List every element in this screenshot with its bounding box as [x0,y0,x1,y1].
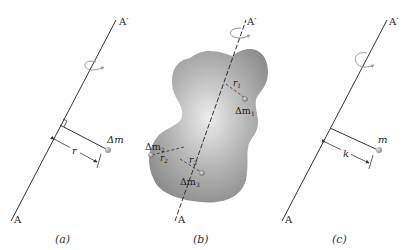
rotation-axis [282,20,387,221]
mass-dot [376,147,382,153]
caption-a: (a) [55,233,70,246]
mass-3-dot [200,171,205,176]
rotation-arrow-icon [230,28,250,38]
mass-1-dot [243,97,248,102]
rotation-arrow-icon [85,61,104,70]
moment-of-inertia-figure: A′ A Δm r (a) A′ A r1 Δm1 r2 Δm [0,0,407,250]
axis-bottom-label: A [13,214,22,225]
mass-dot [105,147,111,153]
rotation-arrow-icon [355,53,374,67]
axis-top-label: A′ [118,16,129,27]
mass-label: m [378,134,387,145]
axis-bottom-label: A [177,214,186,225]
mass-2-dot [149,153,154,158]
axis-top-label: A′ [388,16,399,27]
dimension-tick-end [97,154,101,168]
panel-a: A′ A Δm r (a) [11,16,129,246]
axis-top-label: A′ [246,16,257,27]
axis-bottom-label: A [284,214,293,225]
radius-line [330,128,378,150]
dimension-tick-end [369,155,373,169]
caption-b: (b) [193,233,209,246]
caption-c: (c) [332,233,347,246]
panel-b: A′ A r1 Δm1 r2 Δm2 r3 Δm3 (b) [145,16,268,246]
rotation-axis [11,20,116,221]
mass-label: Δm [106,134,124,145]
distance-label: k [343,148,349,159]
panel-c: A′ A m k (c) [282,16,399,246]
